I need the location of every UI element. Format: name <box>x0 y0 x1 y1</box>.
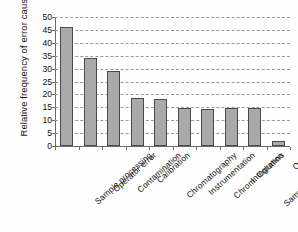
bar <box>248 108 261 146</box>
bar <box>225 108 238 146</box>
x-axis-tick-label: Chrom. Columns <box>231 150 285 200</box>
x-axis-tick-mark <box>173 147 174 150</box>
y-axis-tick-mark <box>52 30 55 31</box>
y-axis-tick-mark <box>52 82 55 83</box>
x-axis-tick-label: Operator error <box>111 150 158 194</box>
x-axis-tick-mark <box>290 147 291 150</box>
y-axis-tick-mark <box>52 94 55 95</box>
y-axis-tick-label: 10 <box>42 115 52 125</box>
y-axis-tick-mark <box>52 107 55 108</box>
y-axis-tick-label: 45 <box>42 25 52 35</box>
x-axis-tick-label: Sample processing <box>92 150 153 206</box>
bar <box>201 109 214 146</box>
bar <box>272 141 285 146</box>
gridline <box>55 30 290 31</box>
x-axis-tick-mark <box>149 147 150 150</box>
x-axis-tick-label: Contamination <box>135 150 183 194</box>
y-axis-tick-mark <box>52 120 55 121</box>
y-axis-tick-label: 35 <box>42 51 52 61</box>
x-axis-tick-mark <box>55 147 56 150</box>
bar <box>178 108 191 146</box>
x-axis-tick-mark <box>243 147 244 150</box>
x-axis-tick-mark <box>126 147 127 150</box>
y-axis-tick-label: 25 <box>42 77 52 87</box>
y-axis-tick-label: 30 <box>42 64 52 74</box>
bar <box>84 58 97 146</box>
x-axis-tick-label: Calibration <box>155 150 192 185</box>
x-axis-tick-label: Integration <box>249 150 286 185</box>
y-axis-tick-label: 20 <box>42 89 52 99</box>
x-axis-tick-label: Chromatography <box>184 150 238 200</box>
bar <box>60 27 73 146</box>
y-axis-tick-mark <box>52 133 55 134</box>
y-axis-title: Relative frequency of error cause <box>13 0 35 145</box>
y-axis-tick-mark <box>52 43 55 44</box>
y-axis-tick-label: 15 <box>42 102 52 112</box>
x-axis-tick-label: Other <box>291 150 298 172</box>
x-axis-tick-label: Instrumentation <box>206 150 257 197</box>
y-axis-tick-label: 50 <box>42 12 52 22</box>
x-axis-tick-mark <box>79 147 80 150</box>
bar <box>154 99 167 146</box>
gridline <box>55 43 290 44</box>
bar <box>131 98 144 146</box>
plot-area: 05101520253035404550 <box>55 17 290 147</box>
y-axis-tick-label: 40 <box>42 38 52 48</box>
x-axis-tick-mark <box>102 147 103 150</box>
x-axis-tick-mark <box>220 147 221 150</box>
gridline <box>55 17 290 18</box>
x-axis-tick-label: Sample introduction <box>281 150 298 208</box>
bar <box>107 71 120 146</box>
x-axis-tick-mark <box>196 147 197 150</box>
y-axis-tick-mark <box>52 17 55 18</box>
x-axis-tick-mark <box>267 147 268 150</box>
bar-chart: Relative frequency of error cause 051015… <box>0 0 298 232</box>
y-axis-tick-mark <box>52 56 55 57</box>
y-axis-tick-mark <box>52 69 55 70</box>
